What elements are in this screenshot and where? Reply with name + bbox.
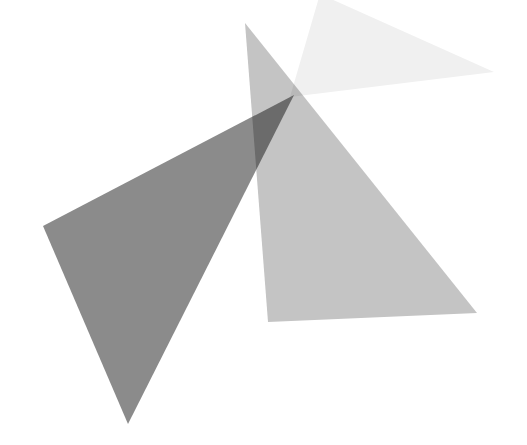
triangles-composition (0, 0, 527, 445)
artwork-canvas (0, 0, 527, 445)
